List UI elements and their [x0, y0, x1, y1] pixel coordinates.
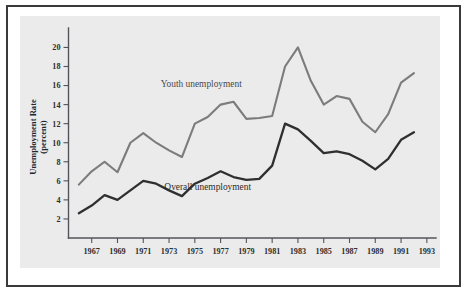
y-axis-tick-label: 4: [56, 196, 60, 205]
series-label-youth-unemployment: Youth unemployment: [161, 79, 242, 89]
y-axis-tick-label: 16: [52, 81, 60, 90]
line-chart: 2468101214161820 19671969197119731975197…: [0, 0, 467, 293]
x-axis-tick-label: 1975: [187, 247, 203, 256]
x-axis-tick-label: 1971: [135, 247, 151, 256]
x-axis: 1967196919711973197519771979198119831985…: [69, 238, 437, 256]
x-axis-tick-label: 1983: [290, 247, 306, 256]
x-axis-tick-label: 1969: [109, 247, 125, 256]
y-axis-tick-label: 14: [52, 101, 60, 110]
x-axis-tick-label: 1977: [212, 247, 228, 256]
x-axis-tick-label: 1985: [316, 247, 332, 256]
x-axis-tick-label: 1991: [393, 247, 409, 256]
y-axis-title: Unemployment Rate(percent): [28, 99, 48, 175]
y-axis-tick-label: 8: [56, 158, 60, 167]
y-axis-tick-label: 18: [52, 62, 60, 71]
y-axis-tick-label: 20: [52, 43, 60, 52]
y-axis-title-line1: Unemployment Rate: [28, 99, 38, 175]
x-axis-tick-label: 1967: [84, 247, 100, 256]
x-axis-tick-label: 1973: [161, 247, 177, 256]
x-axis-tick-label: 1979: [238, 247, 254, 256]
x-axis-tick-label: 1981: [264, 247, 280, 256]
y-axis-tick-label: 12: [52, 120, 60, 129]
x-axis-tick-label: 1993: [419, 247, 435, 256]
y-axis-title-line2: (percent): [38, 120, 48, 153]
chart-figure: 2468101214161820 19671969197119731975197…: [0, 0, 467, 293]
y-axis-tick-label: 6: [56, 177, 60, 186]
x-axis-tick-label: 1987: [341, 247, 357, 256]
y-axis: 2468101214161820: [52, 28, 68, 238]
y-axis-tick-label: 2: [56, 215, 60, 224]
series-line-youth-unemployment: [79, 47, 414, 184]
series-line-overall-unemployment: [79, 124, 414, 214]
series-label-overall-unemployment: Overall unemployment: [164, 182, 251, 192]
x-axis-tick-label: 1989: [367, 247, 383, 256]
series-annotations: Youth unemploymentOverall unemployment: [161, 79, 252, 192]
y-axis-tick-label: 10: [52, 139, 60, 148]
